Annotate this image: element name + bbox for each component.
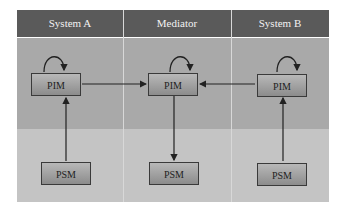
mediator-pim-box: PIM — [148, 73, 198, 96]
system-a-psm-box: PSM — [41, 162, 91, 185]
system-a-pim-box: PIM — [31, 73, 81, 96]
pim-psm-mediator-diagram: System A Mediator System B PIM PIM PIM P… — [17, 10, 329, 202]
system-b-pim-box: PIM — [257, 74, 307, 97]
mediator-psm-box: PSM — [149, 162, 199, 185]
system-b-psm-box: PSM — [257, 163, 307, 186]
